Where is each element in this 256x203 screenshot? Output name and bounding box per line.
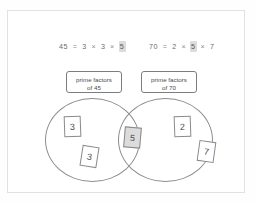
equation-45-factor-1: 3 (81, 41, 88, 52)
equation-70-factor-3: 7 (209, 41, 216, 52)
label-box-prime-factors-70: prime factors of 70 (141, 71, 197, 93)
equation-45-factor-3-highlighted: 5 (119, 41, 126, 52)
number-card-3-left-b-value: 3 (86, 151, 93, 162)
equation-70-factor-2-highlighted: 5 (190, 41, 197, 52)
equation-45: 45 = 3 × 3 × 5 (58, 41, 126, 52)
equation-70-equals: = (162, 41, 169, 52)
equation-70-operator-2: × (199, 41, 206, 52)
label-45-line-2: of 45 (67, 84, 121, 92)
equation-45-equals: = (72, 41, 79, 52)
number-card-3-left-a-value: 3 (70, 121, 75, 131)
number-card-2-right[interactable]: 2 (174, 116, 192, 138)
equation-45-operator-1: × (90, 41, 97, 52)
label-45-line-1: prime factors (67, 76, 121, 84)
diagram-frame: 45 = 3 × 3 × 5 70 = 2 × 5 × 7 prime fact… (7, 10, 245, 193)
equation-70-factor-1: 2 (171, 41, 178, 52)
diagram-canvas: 45 = 3 × 3 × 5 70 = 2 × 5 × 7 prime fact… (0, 0, 256, 203)
equation-70: 70 = 2 × 5 × 7 (148, 41, 216, 52)
equation-70-product: 70 (148, 41, 159, 52)
number-card-7-value: 7 (203, 146, 209, 157)
label-70-line-2: of 70 (142, 84, 196, 92)
number-card-7-right[interactable]: 7 (197, 140, 217, 163)
number-card-3-left-b[interactable]: 3 (79, 145, 99, 168)
equation-70-operator-1: × (180, 41, 187, 52)
number-card-5-value: 5 (130, 132, 136, 142)
equation-45-factor-2: 3 (100, 41, 107, 52)
number-card-5-intersection[interactable]: 5 (123, 126, 142, 148)
equation-45-product: 45 (58, 41, 69, 52)
label-box-prime-factors-45: prime factors of 45 (66, 71, 122, 93)
equation-45-operator-2: × (109, 41, 116, 52)
number-card-3-left-a[interactable]: 3 (64, 116, 82, 138)
number-card-2-value: 2 (180, 121, 185, 131)
label-70-line-1: prime factors (142, 76, 196, 84)
